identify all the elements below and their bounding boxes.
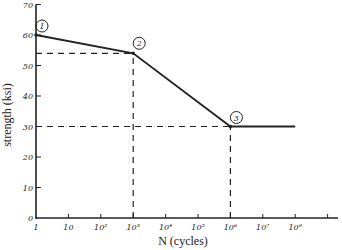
x-tick-label: 10² xyxy=(94,223,107,232)
y-tick-label: 70 xyxy=(23,1,33,10)
y-tick-label: 0 xyxy=(28,214,33,223)
y-tick-label: 60 xyxy=(23,31,33,40)
y-tick-label: 10 xyxy=(23,184,33,193)
y-tick-label: 40 xyxy=(22,92,33,101)
point-label: 2 xyxy=(136,39,142,48)
x-tick-label: 10⁵ xyxy=(191,223,205,232)
x-tick-label: 10⁶ xyxy=(224,223,238,232)
reference-lines xyxy=(36,53,230,218)
curve xyxy=(36,35,295,127)
x-tick-label: 10³ xyxy=(127,223,140,232)
y-axis-label: strength (ksi) xyxy=(0,83,14,147)
x-axis-label: N (cycles) xyxy=(158,234,208,248)
x-tick-label: 10⁷ xyxy=(256,223,270,232)
x-tick-label: 10 xyxy=(63,223,73,232)
sn-curve-line xyxy=(36,35,295,127)
point-dot xyxy=(229,125,233,129)
sn-chart: 01020304050607011010²10³10⁴10⁵10⁶10⁷10⁸ … xyxy=(0,0,342,250)
y-tick-label: 20 xyxy=(22,153,33,162)
point-label: 1 xyxy=(39,22,44,31)
x-tick-label: 10⁴ xyxy=(159,223,172,232)
point-label: 3 xyxy=(234,114,239,123)
axes xyxy=(36,5,338,220)
x-tick-label: 1 xyxy=(33,223,38,232)
x-tick-label: 10⁸ xyxy=(289,223,303,232)
point-dot xyxy=(34,33,38,37)
ticks: 01020304050607011010²10³10⁴10⁵10⁶10⁷10⁸ xyxy=(22,1,328,233)
point-dot xyxy=(131,52,135,56)
y-tick-label: 30 xyxy=(23,123,33,132)
y-tick-label: 50 xyxy=(23,62,33,71)
